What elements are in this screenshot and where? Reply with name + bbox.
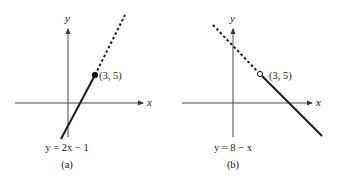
open-point-b [257,71,262,76]
caption-b: (b) [227,159,240,171]
y-axis-label-a: y [64,12,70,24]
x-axis-label-a: x [146,96,152,108]
solid-line-b [262,76,322,136]
point-label-b: (3, 5) [269,70,292,82]
graph-a: x y (3, 5) y = 2x − 1 (a) [15,12,152,171]
piecewise-graphs-figure: x y (3, 5) y = 2x − 1 (a) x y (3, 5) y =… [0,0,338,182]
solid-line-a [61,75,95,139]
dashed-line-b [213,25,258,72]
equation-a: y = 2x − 1 [45,142,88,153]
x-axis-label-b: x [315,96,321,108]
y-axis-label-b: y [229,12,235,24]
dashed-line-a [95,15,125,75]
point-label-a: (3, 5) [99,70,122,82]
filled-point-a [92,72,98,78]
equation-b: y = 8 − x [214,142,253,153]
caption-a: (a) [61,159,73,171]
graph-b: x y (3, 5) y = 8 − x (b) [182,12,322,171]
